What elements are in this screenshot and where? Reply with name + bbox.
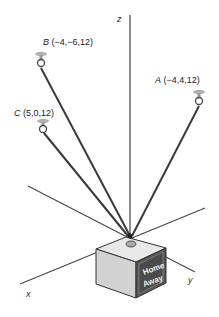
anchor-a-hook [193,90,205,105]
home-away-box: Home Away [96,237,166,298]
anchor-b-hook [35,52,47,67]
cable-b [41,68,130,236]
cables [41,68,199,236]
cable-c [44,133,128,236]
y-axis-label: y [187,275,193,285]
anchor-b-label: B (−4,−6,12) [43,37,93,47]
z-axis-label: z [116,14,122,24]
cable-a [132,106,199,236]
force-diagram: z x y A (−4,4,12) B (−4,−6,12) C (5,0,12… [0,0,219,317]
anchor-c-label: C (5,0,12) [14,108,54,118]
anchor-a-label: A (−4,4,12) [154,75,200,85]
anchor-c-hook [37,119,49,133]
x-axis-label: x [25,289,31,299]
cable-knot [128,234,133,239]
